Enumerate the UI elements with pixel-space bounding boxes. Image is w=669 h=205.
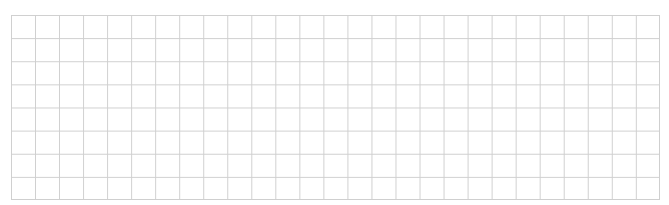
blank-grid: [11, 15, 660, 200]
